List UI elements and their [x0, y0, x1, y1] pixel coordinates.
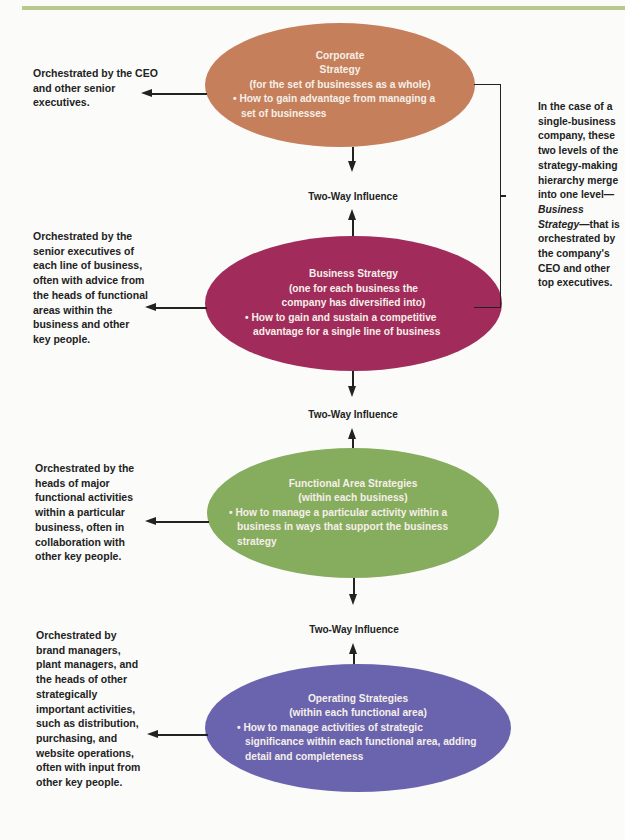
- corporate-title-2: Strategy: [320, 63, 361, 78]
- corporate-scope: (for the set of businesses as a whole): [249, 78, 430, 93]
- business-connector-line: [154, 307, 207, 309]
- influence-line-down-2: [352, 371, 354, 387]
- arrow-left-icon: [145, 303, 156, 311]
- corporate-connector-line: [150, 93, 207, 95]
- note-italic: Business Strategy: [538, 204, 584, 230]
- operating-strategy-ellipse: Operating Strategies (within each functi…: [205, 664, 511, 792]
- arrow-left-icon: [141, 89, 152, 97]
- operating-orchestrated-by: Orchestrated by brand managers, plant ma…: [36, 628, 146, 790]
- corporate-bullet: • How to gain advantage from managing a …: [231, 92, 449, 121]
- influence-line-up-1: [352, 219, 354, 237]
- business-scope: (one for each business the company has d…: [243, 282, 464, 311]
- note-text-1: In the case of a single-business company…: [538, 101, 618, 200]
- functional-scope: (within each business): [298, 491, 407, 506]
- two-way-influence-label-2: Two-Way Influence: [253, 409, 453, 420]
- operating-scope: (within each functional area): [289, 706, 427, 721]
- functional-strategy-ellipse: Functional Area Strategies (within each …: [207, 448, 499, 578]
- influence-line-down-3: [353, 578, 355, 595]
- arrow-down-icon: [348, 161, 356, 172]
- operating-bullet: • How to manage activities of strategic …: [235, 721, 481, 765]
- operating-title: Operating Strategies: [308, 692, 408, 707]
- functional-bullet: • How to manage a particular activity wi…: [227, 506, 479, 550]
- arrow-left-icon: [147, 730, 158, 738]
- business-strategy-ellipse: Business Strategy (one for each business…: [205, 236, 502, 371]
- business-title: Business Strategy: [309, 267, 398, 282]
- operating-connector-line: [156, 734, 208, 736]
- arrow-left-icon: [145, 517, 156, 525]
- business-orchestrated-by: Orchestrated by the senior executives of…: [33, 229, 148, 347]
- functional-orchestrated-by: Orchestrated by the heads of major funct…: [35, 461, 153, 564]
- two-way-influence-label-1: Two-Way Influence: [253, 191, 453, 202]
- functional-connector-line: [154, 521, 209, 523]
- corporate-strategy-ellipse: Corporate Strategy (for the set of busin…: [205, 23, 475, 147]
- merge-bracket: [474, 84, 501, 308]
- bracket-tick: [500, 195, 506, 197]
- arrow-down-icon: [349, 594, 357, 605]
- header-accent-bar: [22, 6, 625, 10]
- two-way-influence-label-3: Two-Way Influence: [254, 624, 454, 635]
- business-bullet: • How to gain and sustain a competitive …: [243, 311, 464, 340]
- functional-title: Functional Area Strategies: [289, 477, 418, 492]
- arrow-down-icon: [348, 386, 356, 397]
- single-business-note: In the case of a single-business company…: [538, 100, 625, 291]
- corporate-title-1: Corporate: [316, 49, 365, 64]
